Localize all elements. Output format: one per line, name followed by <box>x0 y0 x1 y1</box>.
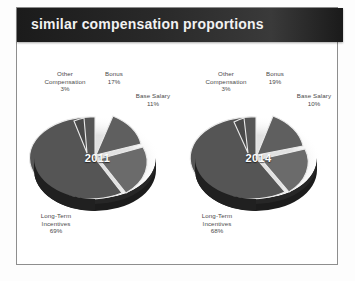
pie-chart-2011: 2011 Other Compensation 3% Bonus 17% Bas… <box>17 44 178 259</box>
pie-label-line2: Compensation <box>205 78 246 85</box>
pie-label-bonus-2011: Bonus 17% <box>93 70 135 85</box>
pie-label-value: 69% <box>25 227 87 235</box>
pie-label-bonus-2014: Bonus 19% <box>254 70 296 85</box>
slide: similar compensation proportions <box>0 0 355 281</box>
pie-label-value: 11% <box>127 100 179 108</box>
pie-label-value: 10% <box>288 100 340 108</box>
pie-label-value: 3% <box>33 85 97 93</box>
pie-graphic-2011: 2011 Other Compensation 3% Bonus 17% Bas… <box>17 44 178 259</box>
pie-label-long-term-incentives-2011: Long-Term Incentives 69% <box>25 212 87 235</box>
pie-label-long-term-incentives-2014: Long-Term Incentives 68% <box>186 212 248 235</box>
pie-chart-2014: 2014 Other Compensation 3% Bonus 19% Bas… <box>178 44 339 259</box>
pie-graphic-2014: 2014 Other Compensation 3% Bonus 19% Bas… <box>178 44 339 259</box>
pie-label-line1: Long-Term <box>202 212 232 219</box>
pie-label-value: 68% <box>186 227 248 235</box>
pie-label-value: 19% <box>254 78 296 86</box>
pie-center-label-2014: 2014 <box>178 152 339 164</box>
pie-label-line2: Compensation <box>44 78 85 85</box>
pie-label-other-compensation-2014: Other Compensation 3% <box>194 70 258 93</box>
pie-label-line1: Other <box>57 70 73 77</box>
pie-label-line2: Incentives <box>42 220 71 227</box>
pie-label-line1: Bonus <box>266 70 284 77</box>
pie-center-label-2011: 2011 <box>17 152 178 164</box>
pie-label-line1: Long-Term <box>41 212 71 219</box>
pie-label-line1: Base Salary <box>136 92 170 99</box>
pie-label-other-compensation-2011: Other Compensation 3% <box>33 70 97 93</box>
pie-label-base-salary-2014: Base Salary 10% <box>288 92 340 107</box>
slide-title-bar: similar compensation proportions <box>17 8 343 42</box>
pie-label-line1: Other <box>218 70 234 77</box>
pie-label-line2: Incentives <box>203 220 232 227</box>
pie-label-value: 17% <box>93 78 135 86</box>
pie-label-base-salary-2011: Base Salary 11% <box>127 92 179 107</box>
pie-label-value: 3% <box>194 85 258 93</box>
pie-label-line1: Bonus <box>105 70 123 77</box>
pie-label-line1: Base Salary <box>297 92 331 99</box>
page-title: similar compensation proportions <box>31 16 264 32</box>
